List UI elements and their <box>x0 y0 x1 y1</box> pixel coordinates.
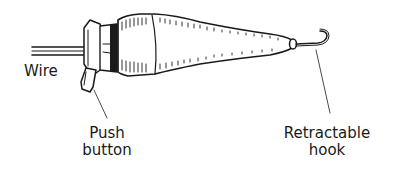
label-push-button: Push button <box>72 125 142 159</box>
tool-body <box>118 14 297 76</box>
label-wire: Wire <box>24 63 58 80</box>
leader-line-hook <box>316 50 330 113</box>
retractable-hook <box>296 29 329 46</box>
diagram-canvas: Wire Push button Retractable hook <box>0 0 399 174</box>
wire <box>32 47 84 55</box>
collar <box>100 24 117 72</box>
push-button <box>81 68 96 92</box>
label-push-button-line2: button <box>72 142 142 159</box>
label-push-button-line1: Push <box>72 125 142 142</box>
leader-line-push-button <box>94 90 107 118</box>
label-hook-line2: hook <box>270 142 384 159</box>
label-retractable-hook: Retractable hook <box>270 125 384 159</box>
label-hook-line1: Retractable <box>270 125 384 142</box>
